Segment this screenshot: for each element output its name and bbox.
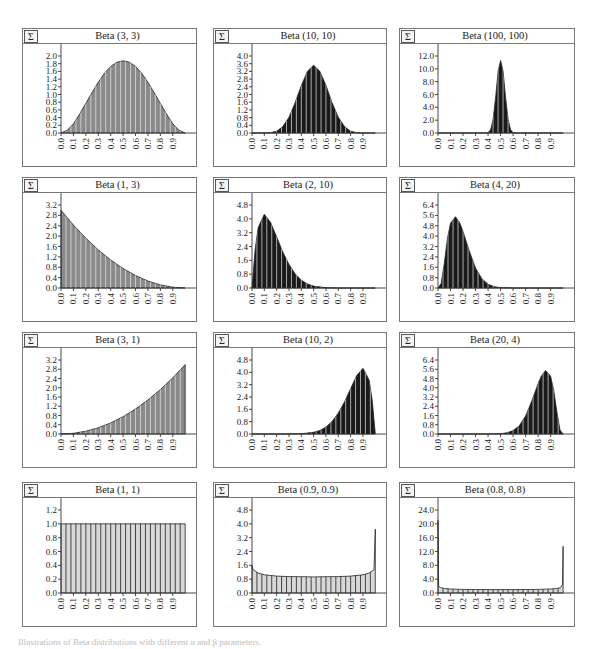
x-tick-label: 0.4 xyxy=(483,439,493,451)
sigma-icon[interactable]: Σ xyxy=(24,334,38,347)
x-tick-label: 0.0 xyxy=(433,598,443,610)
x-tick-label: 0.5 xyxy=(118,439,128,451)
chart-title: Beta (0.8, 0.8) xyxy=(416,483,574,498)
density-area xyxy=(438,217,563,288)
x-tick-label: 0.8 xyxy=(346,598,356,610)
x-tick-label: 0.1 xyxy=(446,138,456,149)
y-tick-label: 0.0 xyxy=(46,588,58,598)
x-tick-label: 0.7 xyxy=(521,439,531,451)
panel-titlebar: ΣBeta (3, 1) xyxy=(23,333,196,348)
x-tick-label: 0.1 xyxy=(446,293,456,304)
x-tick-label: 0.7 xyxy=(333,439,343,451)
y-tick-label: 1.2 xyxy=(46,401,57,411)
x-tick-label: 0.3 xyxy=(93,293,103,305)
y-tick-label: 2.0 xyxy=(46,231,58,241)
sigma-icon[interactable]: Σ xyxy=(24,30,38,43)
y-tick-label: 1.2 xyxy=(46,252,57,262)
sigma-icon[interactable]: Σ xyxy=(215,334,229,347)
y-tick-label: 3.2 xyxy=(237,228,248,238)
x-tick-label: 0.2 xyxy=(458,138,468,149)
x-tick-label: 0.2 xyxy=(272,439,282,450)
x-tick-label: 0.9 xyxy=(168,598,178,610)
plot-area: 0.00.81.62.43.24.04.80.00.10.20.30.40.50… xyxy=(214,348,386,467)
x-tick-label: 0.2 xyxy=(272,598,282,609)
x-tick-label: 0.7 xyxy=(333,293,343,305)
y-tick-label: 1.6 xyxy=(46,242,58,252)
panel-titlebar: ΣBeta (2, 10) xyxy=(214,178,386,193)
x-tick-label: 0.7 xyxy=(143,293,153,305)
x-tick-label: 0.6 xyxy=(131,293,141,305)
y-tick-label: 0.0 xyxy=(423,283,435,293)
x-tick-label: 0.5 xyxy=(496,598,506,610)
plot-area: 0.00.20.40.60.81.01.20.00.10.20.30.40.50… xyxy=(23,498,196,626)
x-tick-label: 0.3 xyxy=(471,598,481,610)
x-tick-label: 0.6 xyxy=(321,138,331,150)
y-tick-label: 24.0 xyxy=(418,505,434,515)
y-tick-label: 0.0 xyxy=(237,429,249,439)
x-tick-label: 0.8 xyxy=(346,439,356,451)
density-area xyxy=(61,210,185,288)
y-tick-label: 3.2 xyxy=(423,392,434,402)
density-area xyxy=(61,524,185,593)
sigma-icon[interactable]: Σ xyxy=(24,179,38,192)
x-tick-label: 0.2 xyxy=(458,439,468,450)
x-tick-label: 0.4 xyxy=(296,598,306,610)
x-tick-label: 0.2 xyxy=(458,293,468,304)
y-tick-label: 0.0 xyxy=(46,283,58,293)
y-tick-label: 2.4 xyxy=(423,252,435,262)
y-tick-label: 5.6 xyxy=(423,210,435,220)
sigma-icon[interactable]: Σ xyxy=(401,179,415,192)
sigma-icon[interactable]: Σ xyxy=(401,484,415,497)
y-tick-label: 3.2 xyxy=(46,355,57,365)
density-area xyxy=(438,370,563,434)
sigma-icon[interactable]: Σ xyxy=(401,334,415,347)
chart-panel: ΣBeta (3, 3)0.00.20.40.60.81.01.21.41.61… xyxy=(22,28,197,167)
chart-title: Beta (20, 4) xyxy=(416,333,574,348)
density-area xyxy=(252,529,375,593)
chart-title: Beta (10, 2) xyxy=(230,333,386,348)
plot-area: 0.04.08.012.016.020.024.00.00.10.20.30.4… xyxy=(400,498,574,626)
x-tick-label: 0.7 xyxy=(521,598,531,610)
y-tick-label: 2.4 xyxy=(237,392,249,402)
sigma-icon[interactable]: Σ xyxy=(24,484,38,497)
chart-title: Beta (3, 1) xyxy=(39,333,196,348)
x-tick-label: 0.8 xyxy=(346,138,356,150)
x-tick-label: 0.6 xyxy=(508,598,518,610)
x-tick-label: 0.6 xyxy=(508,293,518,305)
y-tick-label: 0.8 xyxy=(237,417,249,427)
density-area xyxy=(438,520,563,593)
x-tick-label: 0.5 xyxy=(118,138,128,150)
x-tick-label: 0.4 xyxy=(106,293,116,305)
x-tick-label: 0.3 xyxy=(471,439,481,451)
y-tick-label: 0.8 xyxy=(423,273,435,283)
x-tick-label: 0.1 xyxy=(68,293,78,304)
density-area xyxy=(252,368,375,434)
panel-titlebar: ΣBeta (3, 3) xyxy=(23,29,196,44)
y-tick-label: 8.0 xyxy=(423,560,435,570)
x-tick-label: 0.6 xyxy=(131,138,141,150)
x-tick-label: 0.3 xyxy=(284,138,294,150)
sigma-icon[interactable]: Σ xyxy=(215,179,229,192)
x-tick-label: 0.4 xyxy=(483,293,493,305)
y-tick-label: 2.4 xyxy=(423,401,435,411)
x-tick-label: 0.8 xyxy=(533,293,543,305)
plot-area: 0.02.04.06.08.010.012.00.00.10.20.30.40.… xyxy=(400,44,574,166)
panel-titlebar: ΣBeta (4, 20) xyxy=(400,178,574,193)
chart-title: Beta (1, 3) xyxy=(39,178,196,193)
sigma-icon[interactable]: Σ xyxy=(215,30,229,43)
y-tick-label: 0.0 xyxy=(237,283,249,293)
y-tick-label: 0.0 xyxy=(423,429,435,439)
chart-panel: ΣBeta (100, 100)0.02.04.06.08.010.012.00… xyxy=(399,28,575,167)
x-tick-label: 0.2 xyxy=(81,598,91,609)
sigma-icon[interactable]: Σ xyxy=(215,484,229,497)
x-tick-label: 0.1 xyxy=(68,439,78,450)
x-tick-label: 0.3 xyxy=(471,138,481,150)
y-tick-label: 0.4 xyxy=(46,420,58,430)
chart-title: Beta (1, 1) xyxy=(39,483,196,498)
x-tick-label: 0.3 xyxy=(93,439,103,451)
chart-panel: ΣBeta (4, 20)0.00.81.62.43.24.04.85.66.4… xyxy=(399,177,575,322)
x-tick-label: 0.0 xyxy=(433,439,443,451)
y-tick-label: 4.0 xyxy=(237,51,249,61)
y-tick-label: 2.8 xyxy=(46,210,58,220)
sigma-icon[interactable]: Σ xyxy=(401,30,415,43)
